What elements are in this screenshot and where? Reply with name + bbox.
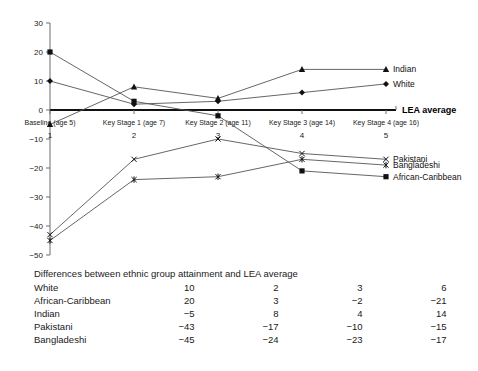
data-table-block: Differences between ethnic group attainm… xyxy=(0,268,478,371)
table-title: Differences between ethnic group attainm… xyxy=(0,268,478,281)
x-stage-label: Key Stage 3 (age 14) xyxy=(269,119,335,127)
table-cell-value: −43 xyxy=(111,320,195,333)
table-row: Indian−58414 xyxy=(0,307,447,320)
table-cell-value: −45 xyxy=(111,333,195,346)
table-cell-value: −23 xyxy=(279,333,363,346)
y-tick-label: 10 xyxy=(34,77,43,86)
y-tick-label: −20 xyxy=(29,164,43,173)
table-cell-value: 20 xyxy=(111,294,195,307)
table-cell-value: 3 xyxy=(279,281,363,294)
y-tick-label: −40 xyxy=(29,222,43,231)
table-cell-value: −15 xyxy=(363,320,447,333)
x-stage-label: Key Stage 2 (age 11) xyxy=(185,119,251,127)
line-chart: 3020100−10−20−30−40−50LEA averageBaselin… xyxy=(0,0,478,268)
table-cell-value: 14 xyxy=(363,307,447,320)
chart-canvas: 3020100−10−20−30−40−50LEA averageBaselin… xyxy=(0,0,478,268)
x-stage-label: Key Stage 4 (age 16) xyxy=(353,119,419,127)
y-tick-label: −30 xyxy=(29,193,43,202)
table-cell-value: 4 xyxy=(279,307,363,320)
table-cell-value: 6 xyxy=(363,281,447,294)
table-row-label: African-Caribbean xyxy=(0,294,111,307)
marker-diamond xyxy=(383,81,389,87)
marker-square xyxy=(131,99,136,104)
series-label: Bangladeshi xyxy=(393,160,440,170)
series-label: White xyxy=(393,79,415,89)
x-stage-label: Key Stage 1 (age 7) xyxy=(103,119,165,127)
x-tick-number: 5 xyxy=(384,131,389,140)
y-tick-label: 20 xyxy=(34,48,43,57)
marker-square xyxy=(47,49,52,54)
lea-average-label: LEA average xyxy=(402,105,456,115)
marker-square xyxy=(215,113,220,118)
table-cell-value: −21 xyxy=(363,294,447,307)
y-tick-label: 0 xyxy=(39,106,44,115)
marker-diamond xyxy=(299,90,305,96)
figure: 3020100−10−20−30−40−50LEA averageBaselin… xyxy=(0,0,478,371)
table-cell-value: 8 xyxy=(195,307,279,320)
y-tick-label: −10 xyxy=(29,135,43,144)
series-line xyxy=(50,159,386,240)
marker-square xyxy=(299,168,304,173)
table-cell-value: 2 xyxy=(195,281,279,294)
table-cell-value: −10 xyxy=(279,320,363,333)
series-label: African-Caribbean xyxy=(393,172,462,182)
table-row: Pakistani−43−17−10−15 xyxy=(0,320,447,333)
table-cell-value: −17 xyxy=(363,333,447,346)
table-cell-value: −2 xyxy=(279,294,363,307)
table-row-label: White xyxy=(0,281,111,294)
x-tick-number: 2 xyxy=(132,131,137,140)
marker-diamond xyxy=(47,78,53,84)
series-line xyxy=(50,139,386,235)
x-tick-number: 1 xyxy=(48,131,53,140)
y-tick-label: 30 xyxy=(34,19,43,28)
table-cell-value: −24 xyxy=(195,333,279,346)
table-cell-value: −17 xyxy=(195,320,279,333)
table-row-label: Pakistani xyxy=(0,320,111,333)
x-tick-number: 4 xyxy=(300,131,305,140)
marker-square xyxy=(383,174,388,179)
table-row-label: Indian xyxy=(0,307,111,320)
differences-table: White10236African-Caribbean203−2−21India… xyxy=(0,281,447,346)
table-row: African-Caribbean203−2−21 xyxy=(0,294,447,307)
series-bangladeshi: Bangladeshi xyxy=(47,156,439,244)
table-cell-value: 10 xyxy=(111,281,195,294)
table-row-label: Bangladeshi xyxy=(0,333,111,346)
table-row: White10236 xyxy=(0,281,447,294)
y-tick-label: −50 xyxy=(29,251,43,260)
table-cell-value: 3 xyxy=(195,294,279,307)
table-cell-value: −5 xyxy=(111,307,195,320)
series-pakistani: Pakistani xyxy=(47,136,427,237)
table-row: Bangladeshi−45−24−23−17 xyxy=(0,333,447,346)
marker-triangle xyxy=(131,83,137,89)
series-label: Indian xyxy=(393,64,416,74)
